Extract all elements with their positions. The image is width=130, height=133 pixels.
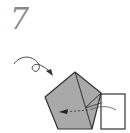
loop-arrow-icon	[14, 57, 53, 76]
origami-diagram	[0, 0, 130, 133]
square-flap	[101, 94, 125, 129]
